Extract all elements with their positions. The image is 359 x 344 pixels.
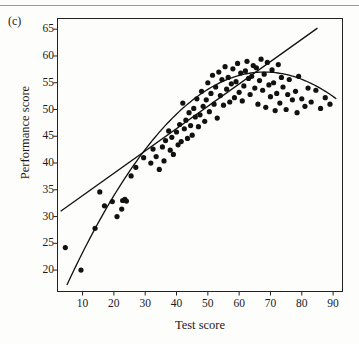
data-point	[233, 79, 238, 84]
data-point	[63, 245, 68, 250]
data-point	[318, 106, 323, 111]
data-point	[287, 77, 292, 82]
data-point	[302, 104, 307, 109]
data-point	[78, 267, 83, 272]
data-point	[274, 91, 279, 96]
data-point	[277, 100, 282, 105]
data-point	[299, 96, 304, 101]
data-point	[97, 189, 102, 194]
data-point	[285, 92, 290, 97]
data-point	[294, 110, 299, 115]
data-point	[241, 83, 246, 88]
data-point	[222, 64, 227, 69]
data-point	[327, 102, 332, 107]
data-point	[240, 98, 245, 103]
data-point	[186, 110, 191, 115]
data-point	[208, 91, 213, 96]
data-point	[268, 94, 273, 99]
data-point	[276, 62, 281, 67]
data-point	[216, 69, 221, 74]
tick-marks	[54, 29, 334, 295]
data-point	[221, 103, 226, 108]
data-point	[179, 139, 184, 144]
data-point	[154, 154, 159, 159]
data-point	[163, 138, 168, 143]
data-point	[141, 155, 146, 160]
figure-panel-c: (c) Performance score Test score 2025303…	[0, 0, 359, 344]
data-point	[229, 81, 234, 86]
data-point	[191, 106, 196, 111]
data-point	[235, 61, 240, 66]
data-point	[161, 158, 166, 163]
data-point	[309, 99, 314, 104]
data-point	[260, 88, 265, 93]
data-point	[124, 198, 129, 203]
data-point	[210, 73, 215, 78]
plot-canvas	[0, 0, 359, 344]
data-point	[255, 102, 260, 107]
data-point	[215, 115, 220, 120]
data-point	[266, 82, 271, 87]
data-point	[244, 59, 249, 64]
data-point	[169, 135, 174, 140]
data-point	[168, 148, 173, 153]
data-point	[204, 97, 209, 102]
data-point	[171, 152, 176, 157]
data-point	[232, 95, 237, 100]
data-point	[284, 107, 289, 112]
data-point	[230, 66, 235, 71]
data-point	[205, 80, 210, 85]
data-point	[237, 90, 242, 95]
data-point	[128, 173, 133, 178]
data-point	[252, 85, 257, 90]
data-point	[293, 89, 298, 94]
data-point	[114, 214, 119, 219]
data-point	[190, 133, 195, 138]
data-point	[243, 68, 248, 73]
data-point	[160, 144, 165, 149]
data-point	[196, 124, 201, 129]
data-point	[119, 206, 124, 211]
data-point	[313, 88, 318, 93]
data-point	[263, 105, 268, 110]
data-point	[257, 78, 262, 83]
data-point	[271, 80, 276, 85]
data-point	[227, 99, 232, 104]
data-point	[290, 97, 295, 102]
plot-frame	[58, 19, 343, 292]
data-point	[323, 95, 328, 100]
data-point	[182, 126, 187, 131]
data-point	[202, 119, 207, 124]
data-point	[207, 109, 212, 114]
data-point	[185, 136, 190, 141]
data-point	[273, 108, 278, 113]
data-point	[280, 84, 285, 89]
linear-fit-line	[61, 28, 318, 211]
data-point	[305, 85, 310, 90]
data-point	[148, 160, 153, 165]
data-point	[157, 167, 162, 172]
data-point	[279, 75, 284, 80]
data-point	[180, 100, 185, 105]
data-point	[248, 92, 253, 97]
scatter-points	[63, 57, 333, 273]
data-point	[258, 57, 263, 62]
data-point	[254, 65, 259, 70]
data-point	[188, 123, 193, 128]
